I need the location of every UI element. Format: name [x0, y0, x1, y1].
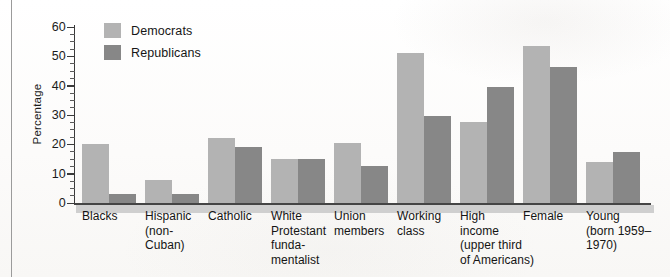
- bar-republicans-3: [298, 159, 325, 203]
- y-minor-tick: [70, 71, 76, 72]
- legend-swatch-democrats: [104, 23, 121, 38]
- bar-democrats-5: [397, 53, 424, 203]
- category-label-1: Hispanic (non- Cuban): [145, 209, 191, 253]
- y-minor-tick: [70, 41, 76, 42]
- y-minor-tick: [70, 107, 76, 108]
- bar-republicans-4: [361, 166, 388, 203]
- y-minor-tick: [70, 63, 76, 64]
- y-minor-tick: [70, 93, 76, 94]
- y-minor-tick: [70, 166, 76, 167]
- bar-republicans-2: [235, 147, 262, 203]
- y-minor-tick: [70, 188, 76, 189]
- legend-label-republicans: Republicans: [131, 46, 201, 60]
- y-tick-50: [67, 56, 75, 57]
- bar-republicans-8: [613, 152, 640, 203]
- y-axis-label-30: 30: [52, 109, 66, 122]
- y-axis-label-10: 10: [52, 168, 66, 181]
- category-label-2: Catholic: [208, 209, 252, 224]
- y-tick-60: [67, 27, 75, 28]
- y-minor-tick: [70, 159, 76, 160]
- legend-label-democrats: Democrats: [131, 24, 192, 38]
- y-tick-40: [67, 85, 75, 86]
- y-minor-tick: [70, 34, 76, 35]
- y-axis-label-50: 50: [52, 50, 66, 63]
- bar-democrats-0: [82, 144, 109, 203]
- bar-democrats-8: [586, 162, 613, 203]
- bar-democrats-3: [271, 159, 298, 203]
- bar-democrats-6: [460, 122, 487, 203]
- y-tick-30: [67, 115, 75, 116]
- category-label-7: Female: [523, 209, 563, 224]
- category-label-8: Young (born 1959– 1970): [586, 209, 651, 253]
- y-minor-tick: [70, 122, 76, 123]
- y-minor-tick: [70, 181, 76, 182]
- y-axis-label-60: 60: [52, 21, 66, 34]
- y-tick-10: [67, 173, 75, 174]
- category-label-3: White Protestant funda- mentalist: [271, 209, 326, 267]
- bar-democrats-7: [523, 46, 550, 203]
- y-axis-label-0: 0: [59, 197, 66, 210]
- y-minor-tick: [70, 78, 76, 79]
- bar-republicans-7: [550, 67, 577, 203]
- category-label-5: Working class: [397, 209, 441, 238]
- y-minor-tick: [70, 129, 76, 130]
- bar-republicans-6: [487, 87, 514, 203]
- category-label-4: Union members: [334, 209, 384, 238]
- y-minor-tick: [70, 137, 76, 138]
- y-minor-tick: [70, 151, 76, 152]
- legend-swatch-republicans: [104, 45, 121, 60]
- bar-republicans-5: [424, 116, 451, 203]
- bar-republicans-1: [172, 194, 199, 203]
- bar-democrats-4: [334, 143, 361, 203]
- y-axis-label-20: 20: [52, 138, 66, 151]
- bar-democrats-1: [145, 180, 172, 203]
- bar-republicans-0: [109, 194, 136, 203]
- y-minor-tick: [70, 100, 76, 101]
- y-tick-20: [67, 144, 75, 145]
- y-minor-tick: [70, 49, 76, 50]
- bar-chart: Percentage 60 50 40 30 20 10 0: [0, 0, 670, 277]
- chart-page: Percentage 60 50 40 30 20 10 0: [0, 0, 670, 277]
- y-axis-label-40: 40: [52, 80, 66, 93]
- legend: Democrats Republicans: [104, 21, 201, 65]
- y-axis-title: Percentage: [31, 59, 43, 169]
- legend-item-democrats: Democrats: [104, 21, 201, 40]
- legend-item-republicans: Republicans: [104, 43, 201, 62]
- bar-democrats-2: [208, 138, 235, 203]
- y-minor-tick: [70, 195, 76, 196]
- category-label-0: Blacks: [82, 209, 118, 224]
- y-tick-0: [67, 203, 75, 204]
